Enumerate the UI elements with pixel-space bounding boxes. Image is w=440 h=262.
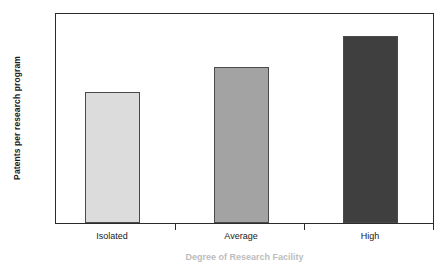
x-tick-mark xyxy=(175,224,176,230)
bar-chart: Patents per research program 0.00 0.50 1… xyxy=(0,0,440,262)
plot-area xyxy=(55,13,434,224)
x-category-label-high: High xyxy=(315,231,425,241)
bar-average xyxy=(214,67,269,223)
x-category-label-isolated: Isolated xyxy=(57,231,167,241)
x-tick-mark xyxy=(304,224,305,230)
x-category-label-average: Average xyxy=(186,231,296,241)
x-axis-title: Degree of Research Facility xyxy=(55,252,434,262)
bar-isolated xyxy=(85,92,140,223)
bar-high xyxy=(343,36,398,223)
x-tick-mark xyxy=(433,224,434,230)
y-axis-title: Patents per research program xyxy=(12,8,22,228)
